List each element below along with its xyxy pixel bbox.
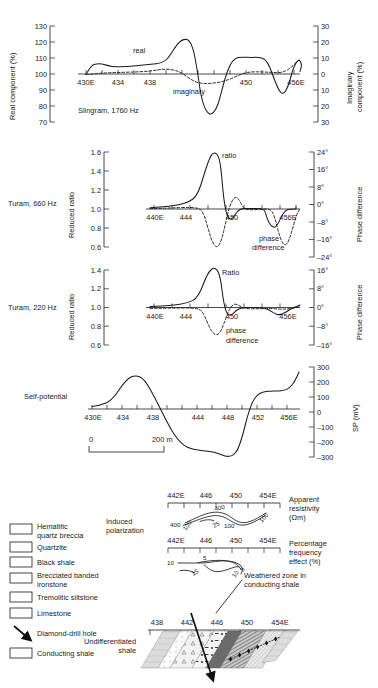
turam660-y2tick-m16: –16° [317,235,332,244]
sp-ytick-m300: –300 [317,453,333,462]
panel-induced-polarization: Induced polarization 442E 446 450 454E 4… [106,491,327,579]
sp-ytick-300: 300 [317,363,329,372]
res-xtick-450: 450 [230,491,242,500]
turam660-ytick-0.8: 0.8 [91,224,101,233]
slingram-xtick-430E: 430E [77,78,94,87]
slingram-y2tick-20t: 20 [321,38,329,47]
turam220-left-axis: 1.4 1.2 1.0 0.8 0.6 [91,266,109,350]
res-axis-label-line3: (Ωm) [289,513,306,522]
slingram-left-axis-label: Real component (%) [8,53,17,120]
turam660-ratio-series-label: ratio [222,151,236,160]
res-label-400-left: 400 [170,521,181,528]
slingram-ytick-120: 120 [35,38,47,47]
turam660-left-axis-label: Reduced ratio [67,192,76,238]
panel-turam220: Turam, 220 Hz Reduced ratio 1.4 1.2 1.0 … [8,266,364,350]
legend-swatch-limestone [10,608,32,618]
sec-xtick-442: 442 [181,618,193,627]
turam660-ytick-0.6: 0.6 [91,243,101,252]
pfe-label-5: 5 [203,554,207,561]
sp-ytick-200: 200 [317,378,329,387]
res-xtick-454E: 454E [259,491,276,500]
slingram-real-series-label: real [133,46,146,55]
turam660-y2tick-16: 16° [317,165,328,174]
slingram-y2tick-10b: 10 [321,86,329,95]
sp-ytick-m100: –100 [317,423,333,432]
slingram-ytick-90: 90 [39,86,47,95]
slingram-ytick-70: 70 [39,118,47,127]
turam220-phase-label-line1: phase [226,326,246,335]
res-contour-25-inner [200,520,214,522]
legend-label-diamond-drill-hole: Diamond-drill hole [37,629,97,638]
pfe-axis-label-line1: Percentage [289,539,327,548]
turam660-ytick-1.4: 1.4 [91,167,101,176]
weathered-zone-label-line2: conducting shale [244,580,299,589]
turam660-xtick-444: 444 [180,213,192,222]
slingram-y2tick-30b: 30 [321,118,329,127]
turam220-right-axis-label: Phase difference [355,285,364,340]
ip-resistivity: 442E 446 450 454E 400 100 400 25 100 100 [167,491,280,532]
sp-scale-bar: 0 200 m [89,435,173,452]
sp-ytick-100: 100 [317,393,329,402]
sp-xtick-448: 448 [222,413,234,422]
turam220-ytick-0.6: 0.6 [91,341,101,350]
turam220-ytick-1.2: 1.2 [91,284,101,293]
slingram-right-axis: 30 20 10 0 10 20 30 [313,22,329,127]
weathered-zone-label-line1: Weathered zone in [244,571,306,580]
slingram-xtick-434: 434 [112,78,124,87]
sp-right-axis: 300 200 100 0 –100 –200 –300 [309,363,333,462]
pfe-axis-label-line3: effect (%) [289,557,321,566]
sp-xtick-444: 444 [192,413,204,422]
turam220-right-axis: 16° 8° 0° –8° –16° [309,266,332,350]
turam220-y2tick-8: 8° [317,284,324,293]
sp-scale-start: 0 [89,435,93,444]
turam220-xtick-444: 444 [180,312,192,321]
res-xtick-442E: 442E [167,491,184,500]
sp-xtick-452: 452 [252,413,264,422]
slingram-y2tick-20b: 20 [321,102,329,111]
res-label-25: 25 [211,519,221,528]
lithology-legend: Hematitic quartz breccia Quartzite Black… [10,522,99,658]
slingram-right-axis-label-line1: Imaginary [345,71,354,104]
ip-caption-line1: Induced [106,517,132,526]
slingram-ytick-110: 110 [35,54,47,63]
legend-label-ironstone-line2: ironstone [37,580,67,589]
slingram-left-axis: 130 120 110 100 90 80 70 [35,22,55,127]
legend-label-hematitic-line2: quartz breccia [37,531,84,540]
turam660-phase-label-line2: difference [252,243,284,252]
figure-root: Real component (%) 130 120 110 100 90 80… [0,0,378,688]
slingram-imaginary-series-label: imaginary [173,87,205,96]
turam660-ytick-1.6: 1.6 [91,148,101,157]
legend-label-black-shale: Black shale [37,558,75,567]
legend-swatch-conducting-shale [10,648,32,658]
turam660-y2tick-8: 8° [317,183,324,192]
sec-xtick-454E: 454E [271,618,288,627]
sp-scale-end: 200 m [152,435,173,444]
turam660-y2tick-0: 0° [317,200,324,209]
turam660-xtick-440E: 440E [146,213,163,222]
legend-swatch-diamond-drill-hole [14,626,28,638]
res-label-100-mid: 100 [224,522,235,529]
section-lithology-bands [141,631,298,668]
sp-xtick-434: 434 [117,413,129,422]
turam220-ytick-1.4: 1.4 [91,266,101,275]
res-axis-label-line2: resistivity [289,504,320,513]
undifferentiated-shale-label-line1: Undifferentiated [84,637,136,646]
slingram-y2tick-30t: 30 [321,22,329,31]
turam220-y2tick-m16: –16° [317,341,332,350]
pfe-xtick-442E: 442E [167,536,184,545]
figure-svg: Real component (%) 130 120 110 100 90 80… [0,0,378,688]
panel-slingram: Real component (%) 130 120 110 100 90 80… [8,22,364,127]
turam660-x-axis: 440E 444 450 456E [146,205,300,222]
turam660-xtick-456E: 456E [279,213,296,222]
legend-label-ironstone-line1: Brecciated banded [37,571,99,580]
pfe-label-15: 15 [190,567,200,577]
turam220-xtick-456E: 456E [279,312,296,321]
turam660-right-axis: 24° 16° 8° 0° –8° –16° –24° [309,148,332,262]
turam660-ytick-1.0: 1.0 [91,205,101,214]
slingram-caption: Slingram, 1760 Hz [78,106,139,115]
turam220-xtick-440E: 440E [146,312,163,321]
turam220-ytick-0.8: 0.8 [91,322,101,331]
pfe-xtick-446: 446 [200,536,212,545]
slingram-ytick-80: 80 [39,102,47,111]
weathered-zone-leader [216,580,242,613]
